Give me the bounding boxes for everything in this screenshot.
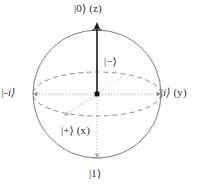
label-back-pole: |−⟩ xyxy=(104,55,117,67)
label-left-pole-ket: |-i⟩ xyxy=(1,86,15,98)
origin-dot xyxy=(95,92,100,97)
bloch-sphere-figure: |0⟩ (z) |−⟩ |-i⟩ |i⟩ (y) |+⟩ (x) |1⟩ xyxy=(0,0,204,187)
label-front-pole: |+⟩ (x) xyxy=(61,124,90,136)
label-right-pole-ket: |i⟩ xyxy=(160,86,171,98)
label-north-pole-ket: |0⟩ xyxy=(74,2,86,14)
label-right-pole: |i⟩ (y) xyxy=(160,86,187,98)
label-south-pole-ket: |1⟩ xyxy=(89,167,101,179)
label-front-pole-axis: (x) xyxy=(77,124,90,136)
label-front-pole-ket: |+⟩ xyxy=(61,124,74,136)
minus-axis-line xyxy=(97,77,122,94)
label-right-pole-axis: (y) xyxy=(174,86,187,98)
label-north-pole: |0⟩ (z) xyxy=(74,2,102,14)
label-back-pole-ket: |−⟩ xyxy=(104,55,117,67)
label-north-pole-axis: (z) xyxy=(89,2,102,14)
x-axis-line xyxy=(64,94,97,116)
z-axis-arrowhead-down xyxy=(95,154,100,159)
label-south-pole: |1⟩ xyxy=(89,167,101,179)
label-left-pole: |-i⟩ xyxy=(1,86,15,98)
